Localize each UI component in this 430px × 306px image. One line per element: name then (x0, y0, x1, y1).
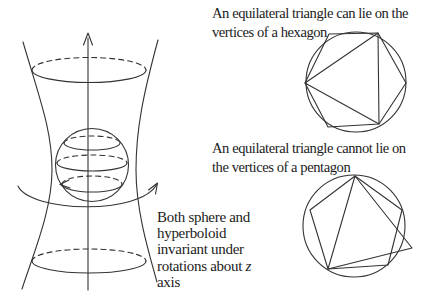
invariance-caption-line3: invariant under (157, 241, 297, 257)
equilateral-triangle-off-pentagon (328, 176, 412, 269)
invariance-caption-line4: rotations about z (157, 258, 297, 274)
z-variable: z (246, 258, 252, 274)
invariance-caption: Both sphere and hyperboloid invariant un… (157, 209, 297, 290)
pentagon-caption-line1: An equilateral triangle cannot lie on (212, 139, 428, 158)
hexagon-caption-line2: vertices of a hexagon (212, 23, 428, 42)
pentagon-polygon (310, 176, 402, 269)
invariance-caption-line2: hyperboloid (157, 225, 297, 241)
hexagon-caption-line1: An equilateral triangle can lie on the (212, 4, 428, 23)
figure-page: An equilateral triangle can lie on the v… (0, 0, 430, 306)
pentagon-circumscribed-circle (303, 175, 405, 277)
hexagon-circumscribed-circle (306, 32, 406, 132)
pentagon-caption-line2: the vertices of a pentagon (212, 158, 428, 177)
invariance-caption-line1: Both sphere and (157, 209, 297, 225)
hexagon-caption: An equilateral triangle can lie on the v… (212, 4, 428, 41)
pentagon-caption: An equilateral triangle cannot lie on th… (212, 139, 428, 176)
invariance-caption-line5: axis (157, 274, 297, 290)
equilateral-triangle-on-hexagon (305, 33, 379, 124)
